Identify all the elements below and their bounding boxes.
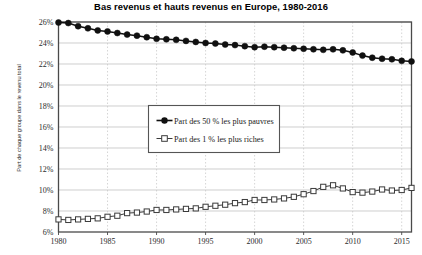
- data-point-marker: [350, 190, 355, 195]
- chart-legend: Part des 50 % les plus pauvresPart des 1…: [149, 106, 280, 153]
- data-point-marker: [252, 197, 257, 202]
- data-point-marker: [271, 44, 277, 50]
- data-point-marker: [75, 23, 81, 29]
- data-point-marker: [350, 49, 356, 55]
- y-tick-label: 10%: [39, 186, 54, 195]
- data-point-marker: [95, 27, 101, 33]
- y-tick-label: 18%: [39, 102, 54, 111]
- data-point-marker: [281, 196, 286, 201]
- data-point-marker: [183, 206, 188, 211]
- data-point-marker: [330, 183, 335, 188]
- y-tick-label: 8%: [43, 207, 54, 216]
- y-tick-label: 20%: [39, 81, 54, 90]
- data-point-marker: [154, 207, 159, 212]
- data-point-marker: [212, 41, 218, 47]
- x-tick-label: 1995: [198, 237, 214, 246]
- data-point-marker: [360, 190, 365, 195]
- data-point-marker: [56, 20, 62, 26]
- data-point-marker: [213, 203, 218, 208]
- data-point-marker: [144, 209, 149, 214]
- y-tick-label: 6%: [43, 228, 54, 237]
- legend-box: [149, 106, 280, 153]
- data-point-marker: [242, 199, 247, 204]
- data-point-marker: [369, 55, 375, 61]
- data-point-marker: [164, 207, 169, 212]
- data-point-marker: [193, 39, 199, 45]
- legend-marker-filled-circle: [161, 117, 167, 123]
- x-axis-ticks: 19801985199019952000200520102015: [51, 232, 410, 246]
- y-tick-label: 14%: [39, 144, 54, 153]
- data-point-marker: [144, 34, 150, 40]
- x-tick-label: 2010: [345, 237, 361, 246]
- y-tick-label: 16%: [39, 123, 54, 132]
- legend-entry-label: Part des 50 % les plus pauvres: [174, 117, 274, 126]
- data-point-marker: [320, 47, 326, 53]
- y-tick-label: 22%: [39, 60, 54, 69]
- data-point-marker: [261, 44, 267, 50]
- data-point-marker: [66, 217, 71, 222]
- data-point-marker: [203, 204, 208, 209]
- plot-area: 26%24%22%20%18%16%14%12%10%8%6% 19801985…: [0, 0, 422, 255]
- data-series: [56, 183, 414, 223]
- data-point-marker: [389, 56, 395, 62]
- data-point-marker: [272, 197, 277, 202]
- data-point-marker: [242, 43, 248, 49]
- data-point-marker: [223, 202, 228, 207]
- data-point-marker: [154, 36, 160, 42]
- x-tick-label: 2005: [296, 237, 312, 246]
- data-point-marker: [399, 187, 404, 192]
- data-point-marker: [203, 40, 209, 46]
- data-point-marker: [311, 188, 316, 193]
- data-point-marker: [389, 188, 394, 193]
- legend-marker-open-square: [162, 136, 168, 142]
- y-axis-ticks: 26%24%22%20%18%16%14%12%10%8%6%: [39, 18, 54, 237]
- data-point-marker: [105, 214, 110, 219]
- data-point-marker: [409, 58, 415, 64]
- data-point-marker: [232, 201, 237, 206]
- data-point-marker: [85, 216, 90, 221]
- data-point-marker: [232, 42, 238, 48]
- data-point-marker: [359, 53, 365, 59]
- y-tick-label: 24%: [39, 39, 54, 48]
- data-point-marker: [370, 189, 375, 194]
- data-point-marker: [163, 36, 169, 42]
- data-point-marker: [134, 33, 140, 39]
- data-point-marker: [399, 58, 405, 64]
- data-point-marker: [125, 211, 130, 216]
- data-point-marker: [340, 186, 345, 191]
- data-point-marker: [193, 206, 198, 211]
- data-point-marker: [95, 216, 100, 221]
- data-point-marker: [65, 20, 71, 26]
- data-series: [56, 20, 415, 65]
- x-tick-label: 2015: [394, 237, 410, 246]
- data-point-marker: [379, 56, 385, 62]
- data-point-marker: [76, 217, 81, 222]
- x-tick-label: 2000: [247, 237, 263, 246]
- data-point-marker: [114, 30, 120, 36]
- legend-entry-label: Part des 1 % les plus riches: [174, 135, 264, 144]
- data-point-marker: [291, 45, 297, 51]
- data-point-marker: [115, 213, 120, 218]
- y-tick-label: 26%: [39, 18, 54, 27]
- data-point-marker: [222, 42, 228, 48]
- data-point-marker: [105, 28, 111, 34]
- data-point-marker: [252, 44, 258, 50]
- x-tick-label: 1990: [149, 237, 165, 246]
- y-tick-label: 12%: [39, 165, 54, 174]
- data-point-marker: [330, 46, 336, 52]
- data-point-marker: [173, 37, 179, 43]
- data-point-marker: [340, 47, 346, 53]
- x-tick-label: 1985: [100, 237, 116, 246]
- data-point-marker: [291, 194, 296, 199]
- data-point-marker: [174, 207, 179, 212]
- data-point-marker: [56, 217, 61, 222]
- data-point-marker: [301, 46, 307, 52]
- data-point-marker: [262, 197, 267, 202]
- data-point-marker: [379, 187, 384, 192]
- chart-figure: Bas revenus et hauts revenus en Europe, …: [0, 0, 422, 255]
- data-point-marker: [321, 184, 326, 189]
- data-point-marker: [310, 46, 316, 52]
- x-tick-label: 1980: [51, 237, 67, 246]
- data-point-marker: [134, 210, 139, 215]
- data-point-marker: [409, 185, 414, 190]
